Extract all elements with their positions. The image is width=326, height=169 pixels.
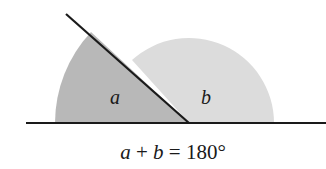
supplementary-angles-diagram: a b a + b = 180° [0,0,326,169]
equation: a + b = 180° [0,140,326,165]
angle-b-label: b [201,86,211,108]
equation-var-b: b [153,140,164,164]
angle-a-label: a [110,86,120,108]
equation-plus: + [131,140,153,164]
equation-var-a: a [120,140,131,164]
equation-equals-value: = 180° [164,140,226,164]
